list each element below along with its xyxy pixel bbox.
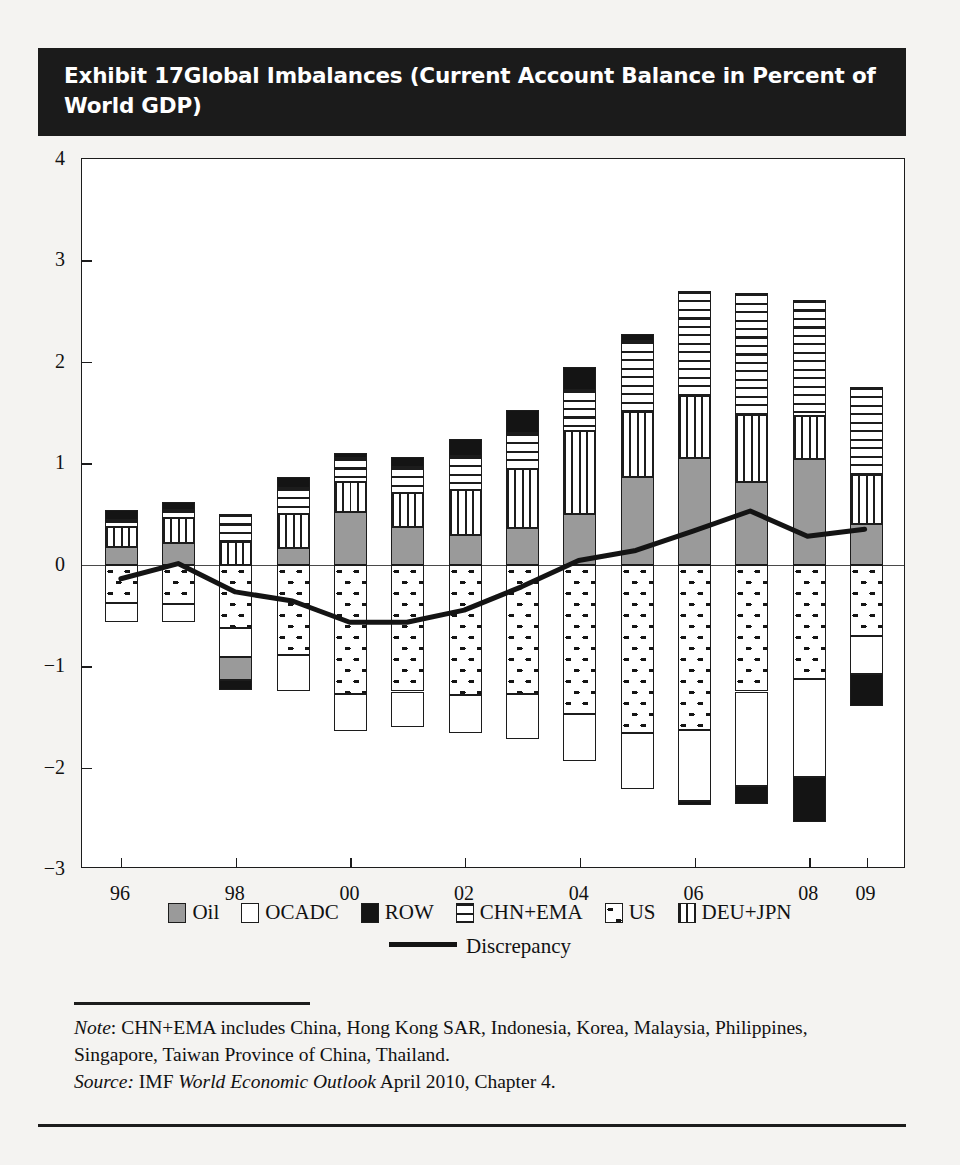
exhibit-title: Global Imbalances (Current Account Balan…: [64, 63, 876, 118]
bar-segment-ocadc: [219, 628, 252, 657]
legend-swatch-row: [361, 903, 379, 923]
bar-segment-ocadc: [850, 636, 883, 675]
bar-segment-row: [506, 410, 539, 433]
bar-segment-us: [506, 565, 539, 694]
source-line: Source: IMF World Economic Outlook April…: [74, 1068, 884, 1095]
bar-segment-chn-ema: [277, 488, 310, 514]
legend-label-discrepancy: Discrepancy: [466, 934, 571, 958]
bar-segment-chn-ema: [678, 291, 711, 396]
chart-legend: OilOCADCROWCHN+EMAUSDEU+JPN Discrepancy: [0, 898, 960, 959]
y-tick-label: 0: [21, 552, 65, 575]
bar-08: [793, 159, 826, 869]
bar-segment-oil: [678, 458, 711, 565]
x-tick-mark: [867, 858, 868, 868]
bar-segment-deu-jpn: [449, 490, 482, 536]
legend-item-oil: Oil: [168, 900, 219, 925]
bar-05: [621, 159, 654, 869]
bar-segment-row: [334, 453, 367, 458]
legend-item-row: ROW: [361, 900, 434, 925]
bar-segment-row: [563, 367, 596, 390]
note-divider: [74, 1002, 310, 1005]
legend-item-us: US: [605, 900, 656, 925]
discrepancy-line-swatch: [389, 942, 457, 947]
y-tick-mark: [82, 362, 92, 363]
bar-07: [735, 159, 768, 869]
bar-segment-chn-ema: [162, 510, 195, 518]
bar-segment-chn-ema: [735, 293, 768, 415]
bar-segment-chn-ema: [563, 390, 596, 431]
x-tick-mark: [236, 858, 237, 868]
bar-segment-row: [793, 777, 826, 823]
bar-segment-chn-ema: [621, 341, 654, 412]
y-tick-label: 1: [21, 451, 65, 474]
bar-segment-us: [563, 565, 596, 714]
bar-96: [105, 159, 138, 869]
legend-label-row: ROW: [385, 900, 434, 924]
bar-segment-deu-jpn: [793, 416, 826, 460]
bar-98: [219, 159, 252, 869]
y-tick-label: 2: [21, 349, 65, 372]
bar-segment-ocadc: [621, 733, 654, 789]
legend-swatch-us: [605, 903, 623, 923]
legend-swatch-oil: [168, 903, 186, 923]
bar-segment-oil: [391, 527, 424, 565]
bar-segment-chn-ema: [391, 467, 424, 492]
bar-segment-ocadc: [277, 655, 310, 692]
bar-segment-row: [678, 801, 711, 805]
bar-segment-row: [850, 674, 883, 705]
bar-segment-row: [391, 457, 424, 467]
bar-segment-us: [277, 565, 310, 655]
bar-segment-deu-jpn: [162, 518, 195, 543]
bar-segment-ocadc: [735, 692, 768, 786]
x-tick-mark: [350, 858, 351, 868]
bar-99: [277, 159, 310, 869]
bar-segment-us: [219, 565, 252, 628]
bar-97: [162, 159, 195, 869]
bar-segment-us: [391, 565, 424, 692]
legend-swatch-deu-jpn: [678, 903, 696, 923]
note-text: : CHN+EMA includes China, Hong Kong SAR,…: [74, 1017, 808, 1065]
legend-label-us: US: [629, 900, 656, 924]
bar-segment-deu-jpn: [621, 412, 654, 478]
exhibit-title-bar: Exhibit 17Global Imbalances (Current Acc…: [38, 48, 906, 136]
legend-item-ocadc: OCADC: [241, 900, 339, 925]
bar-segment-deu-jpn: [678, 396, 711, 458]
y-tick-label: 3: [21, 248, 65, 271]
legend-label-oil: Oil: [192, 900, 219, 924]
chart-container: 43210−1−2−3 9698000204060809: [0, 136, 960, 896]
bar-segment-deu-jpn: [735, 415, 768, 482]
bar-segment-oil: [563, 514, 596, 565]
bar-segment-oil: [793, 459, 826, 564]
legend-swatch-ocadc: [241, 903, 259, 923]
bar-segment-oil: [850, 524, 883, 565]
bar-segment-us: [850, 565, 883, 636]
bar-segment-oil: [277, 548, 310, 564]
bar-segment-deu-jpn: [219, 542, 252, 564]
bar-segment-chn-ema: [334, 458, 367, 481]
bar-segment-deu-jpn: [563, 431, 596, 514]
bar-segment-deu-jpn: [850, 475, 883, 524]
source-text-post: April 2010, Chapter 4.: [376, 1071, 556, 1092]
bar-segment-us: [449, 565, 482, 695]
note-label: Note: [74, 1017, 111, 1038]
legend-label-chn-ema: CHN+EMA: [480, 900, 583, 924]
notes-block: Note: CHN+EMA includes China, Hong Kong …: [74, 1014, 884, 1095]
bar-segment-deu-jpn: [391, 493, 424, 527]
exhibit-number: Exhibit 17: [64, 61, 184, 91]
bar-segment-oil: [621, 477, 654, 564]
y-tick-mark: [82, 768, 92, 769]
exhibit-page: Exhibit 17Global Imbalances (Current Acc…: [0, 0, 960, 1165]
bar-segment-ocadc: [105, 603, 138, 621]
bar-segment-us: [334, 565, 367, 694]
bar-segment-us: [678, 565, 711, 730]
bar-segment-ocadc: [563, 714, 596, 762]
y-tick-label: −3: [21, 857, 65, 880]
bar-segment-row: [735, 786, 768, 804]
bar-segment-chn-ema: [105, 520, 138, 527]
bar-segment-oil: [334, 512, 367, 565]
y-tick-label: 4: [21, 147, 65, 170]
bar-segment-ocadc: [793, 679, 826, 776]
bar-segment-oil: [105, 547, 138, 564]
legend-discrepancy-row: Discrepancy: [0, 934, 960, 959]
x-tick-mark: [465, 858, 466, 868]
